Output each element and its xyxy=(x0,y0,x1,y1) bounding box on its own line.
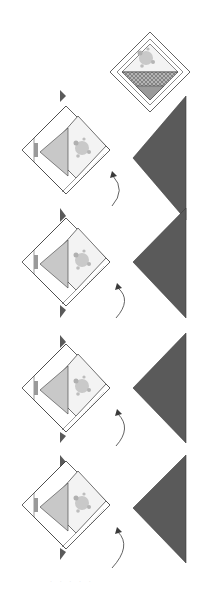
assembly-step-3 xyxy=(22,333,186,446)
rotate-arrow-icon xyxy=(116,414,125,446)
dark-corner-triangle xyxy=(133,96,186,220)
assembly-step-4 xyxy=(22,455,186,568)
caption: · · · · · xyxy=(50,578,180,584)
corner-triangle-small xyxy=(60,90,66,102)
basket-block xyxy=(110,32,190,112)
quilt-assembly-diagram xyxy=(0,0,198,590)
rotate-arrow-icon xyxy=(112,532,124,568)
assembly-step-1 xyxy=(22,90,186,220)
rotate-arrow-icon xyxy=(112,176,119,206)
dark-corner-triangle xyxy=(133,333,186,443)
rotate-arrow-icon xyxy=(116,288,125,318)
dark-corner-triangle xyxy=(133,455,186,563)
assembly-step-2 xyxy=(22,208,186,318)
dark-corner-triangle xyxy=(133,208,186,318)
